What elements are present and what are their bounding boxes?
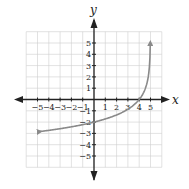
svg-text:3: 3: [86, 62, 91, 71]
y-axis-label: y: [89, 3, 97, 17]
svg-text:−1: −1: [79, 107, 91, 116]
graph: −5−4−3−2−11234554321−1−2−3−4−5 x y: [0, 0, 189, 189]
svg-text:5: 5: [86, 39, 91, 48]
svg-text:−3: −3: [79, 129, 91, 138]
svg-text:2: 2: [114, 103, 119, 112]
svg-text:5: 5: [148, 103, 153, 112]
svg-text:1: 1: [103, 103, 108, 112]
svg-text:2: 2: [86, 73, 91, 82]
svg-text:−5: −5: [79, 152, 91, 161]
svg-text:4: 4: [86, 50, 91, 59]
function-curve: [40, 43, 151, 132]
svg-text:−5: −5: [32, 103, 44, 112]
svg-text:−4: −4: [43, 103, 55, 112]
x-axis-label: x: [172, 93, 179, 107]
svg-text:4: 4: [137, 103, 142, 112]
svg-text:−2: −2: [66, 103, 78, 112]
svg-text:−3: −3: [54, 103, 66, 112]
svg-text:1: 1: [86, 84, 91, 93]
svg-text:−4: −4: [79, 141, 91, 150]
